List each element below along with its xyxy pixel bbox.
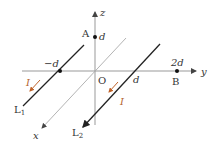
current-arrow-l1 xyxy=(30,80,40,91)
point-b-coord: 2d xyxy=(170,57,184,68)
point-a xyxy=(93,35,97,39)
x-axis-label: x xyxy=(33,130,39,141)
diagram-canvas: z y x O A d B 2d −d d I I L1 L2 xyxy=(0,0,211,144)
wire-l2-label: L2 xyxy=(72,127,83,140)
point-a-label: A xyxy=(81,28,90,39)
x-axis xyxy=(42,38,126,128)
d-label: d xyxy=(133,74,139,85)
current-label-l1: I xyxy=(25,77,31,88)
y-axis-label: y xyxy=(200,66,207,77)
z-axis-label: z xyxy=(99,7,106,18)
point-a-coord: d xyxy=(99,31,105,42)
current-label-l2: I xyxy=(119,96,125,107)
point-b-label: B xyxy=(172,76,179,87)
neg-d-label: −d xyxy=(44,58,59,69)
wire-l1 xyxy=(23,45,84,106)
point-b xyxy=(175,69,179,73)
origin-label: O xyxy=(98,75,106,86)
point-l1-intersect xyxy=(58,69,62,73)
